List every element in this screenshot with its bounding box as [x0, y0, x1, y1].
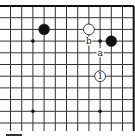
star-point: [31, 39, 35, 43]
board-grid: [0, 6, 134, 131]
markers: ba: [85, 36, 103, 58]
move-number-label: 1: [97, 71, 102, 81]
black-stone: [39, 24, 50, 35]
marker-label-a: a: [97, 48, 103, 58]
star-point: [31, 110, 35, 114]
go-board: 1 ba: [0, 0, 135, 138]
white-stone: [84, 24, 95, 35]
marker-label-b: b: [86, 36, 92, 46]
star-point: [98, 110, 102, 114]
star-point: [98, 39, 102, 43]
caption-fragment: [6, 134, 22, 136]
black-stone: [106, 36, 117, 47]
